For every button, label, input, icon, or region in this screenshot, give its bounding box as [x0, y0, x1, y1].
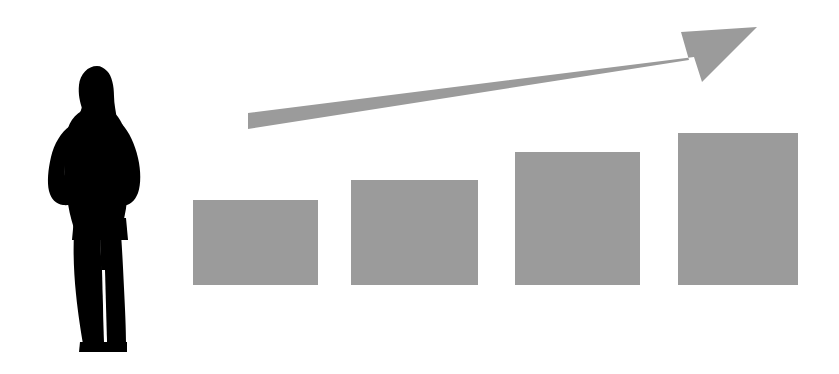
bar-juniors [515, 152, 640, 285]
standing-woman-silhouette [30, 58, 165, 358]
bar-seniors [678, 133, 798, 285]
upward-trend-arrow [240, 4, 770, 144]
infographic-canvas: 56% first-year students 62% sophomores 6… [0, 0, 839, 374]
bar-first-year-students [193, 200, 318, 285]
bar-sophomores [351, 180, 478, 285]
